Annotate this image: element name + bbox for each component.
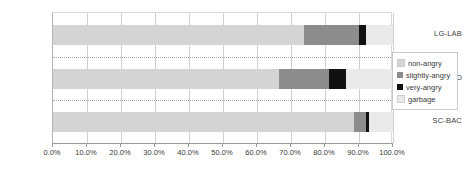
legend-items: non-angryslightly-angryvery-angrygarbage (397, 57, 454, 105)
bar-segment-garbage (346, 69, 393, 89)
legend-item-garbage[interactable]: garbage (397, 93, 454, 105)
x-axis-tick (52, 143, 53, 147)
legend-swatch-icon (397, 95, 405, 103)
x-axis-tick (392, 143, 393, 147)
bar-segment-slightly-angry (279, 69, 329, 89)
x-axis-tick (120, 143, 121, 147)
x-axis-tick (290, 143, 291, 147)
legend-label: very-angry (406, 83, 441, 92)
legend-swatch-icon (397, 72, 403, 78)
legend-item-non-angry[interactable]: non-angry (397, 57, 454, 69)
stacked-bar-chart: 0.0%10.0%20.0%30.0%40.0%50.0%60.0%70.0%8… (0, 0, 462, 169)
plot-area (52, 12, 392, 143)
legend-swatch-icon (397, 84, 403, 90)
bar-segment-garbage (366, 25, 393, 45)
legend-label: garbage (408, 95, 436, 104)
chart-legend: non-angryslightly-angryvery-angrygarbage (392, 52, 458, 110)
legend-swatch-icon (397, 59, 405, 67)
bar-segment-slightly-angry (354, 112, 366, 132)
x-axis-tick-label: 100.0% (370, 148, 414, 157)
bar-segment-non-angry (53, 25, 304, 45)
legend-item-slightly-angry[interactable]: slightly-angry (397, 69, 454, 81)
bar-segment-very-angry (329, 69, 346, 89)
gridline-horizontal (53, 100, 391, 101)
category-label-sc-bac: SC-BAC (414, 116, 462, 125)
category-label-lg-lab: LG-LAB (414, 29, 462, 38)
bar-segment-non-angry (53, 69, 279, 89)
x-axis-tick (222, 143, 223, 147)
bar-row (53, 69, 393, 89)
x-axis-tick (358, 143, 359, 147)
legend-label: non-angry (408, 59, 442, 68)
legend-label: slightly-angry (406, 71, 450, 80)
legend-item-very-angry[interactable]: very-angry (397, 81, 454, 93)
bar-row (53, 112, 393, 132)
x-axis-tick (256, 143, 257, 147)
x-axis-tick (188, 143, 189, 147)
bar-segment-garbage (369, 112, 393, 132)
bar-segment-non-angry (53, 112, 354, 132)
bar-segment-very-angry (359, 25, 366, 45)
x-axis-tick (324, 143, 325, 147)
gridline-horizontal (53, 57, 391, 58)
x-axis-tick (86, 143, 87, 147)
x-axis-tick (154, 143, 155, 147)
bar-row (53, 25, 393, 45)
bar-segment-slightly-angry (304, 25, 359, 45)
